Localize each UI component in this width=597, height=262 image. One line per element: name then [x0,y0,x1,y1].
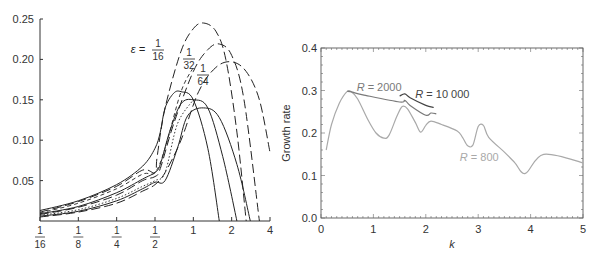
series-label: R = 2000 [357,81,402,93]
series-line [326,90,583,173]
x-tick-label-numerator: 1 [37,225,43,236]
curve-dotted [40,100,193,216]
annotation-denominator: 16 [152,51,164,62]
x-tick-label-numerator: 1 [76,225,82,236]
curve-solid [40,99,237,221]
series-label: R = 800 [460,151,499,163]
y-tick-label: 0.2 [302,127,317,139]
x-tick-label-numerator: 1 [114,225,120,236]
x-tick-label: 4 [528,223,534,235]
annotation-denominator: 32 [183,60,195,71]
x-tick-label-numerator: 1 [152,225,158,236]
y-tick-label: 0.05 [13,175,34,187]
plot-frame [321,48,583,218]
x-tick-label-denominator: 4 [114,239,120,250]
x-tick-label: 1 [370,223,376,235]
x-tick-label-denominator: 16 [34,239,46,250]
x-tick-label: 4 [267,224,273,236]
x-axis-title: k [449,238,455,250]
x-tick-label: 5 [580,223,586,235]
curve-long-dash [40,62,270,217]
x-tick-label-denominator: 2 [152,239,158,250]
y-tick-label: 0.0 [302,212,317,224]
y-tick-label: 0.25 [13,13,34,25]
annotation-denominator: 64 [197,76,209,87]
annotation-numerator: 1 [200,63,206,74]
curve-short-dash [40,68,193,213]
series-label: R = 10 000 [415,88,469,100]
x-tick-label: 1 [190,224,196,236]
y-tick-label: 0.10 [13,134,34,146]
annotation-numerator: 1 [186,47,192,58]
left-chart-dispersion: 0.050.100.150.200.25116181412124ε =11613… [13,13,273,250]
y-tick-label: 0.20 [13,53,34,65]
y-tick-label: 0.1 [302,170,317,182]
y-tick-label: 0.3 [302,85,317,97]
x-tick-label-denominator: 8 [76,239,82,250]
y-axis-title: Growth rate [280,104,292,161]
y-tick-label: 0.4 [302,42,317,54]
x-tick-label: 3 [475,223,481,235]
x-tick-label: 0 [318,223,324,235]
x-tick-label: 2 [423,223,429,235]
annotation-numerator: 1 [155,38,161,49]
figure: 0.050.100.150.200.25116181412124ε =11613… [0,0,597,262]
right-chart-growth-rate: 0123450.00.10.20.30.4kGrowth rateR = 800… [280,42,586,250]
epsilon-label: ε = [131,43,146,55]
y-tick-label: 0.15 [13,94,34,106]
x-tick-label: 2 [229,224,235,236]
